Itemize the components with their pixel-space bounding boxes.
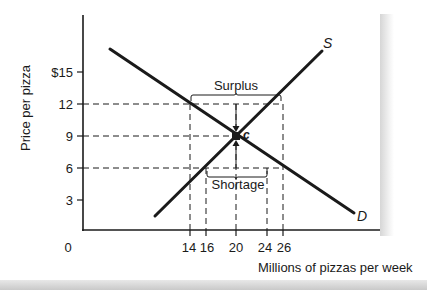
demand-label: D [357, 208, 367, 224]
x-tick-label-24: 24 [258, 240, 272, 255]
x-tick-label-14: 14 [182, 240, 196, 255]
supply-label: S [323, 35, 333, 51]
x-ticks [190, 230, 283, 236]
equilibrium-point [232, 132, 240, 140]
x-tick-label-20: 20 [229, 240, 243, 255]
origin-label: 0 [64, 240, 71, 255]
arrow-up-icon [233, 140, 240, 146]
y-axis-title: Price per pizza [18, 64, 33, 151]
y-tick-label-9: 9 [66, 129, 73, 144]
y-tick-label-12: 12 [59, 97, 73, 112]
y-ticks [77, 72, 83, 200]
y-tick-label-6: 6 [66, 161, 73, 176]
surplus-bracket [191, 93, 281, 101]
equilibrium-label: c [243, 128, 250, 142]
guide-lines [83, 104, 283, 230]
x-axis-title: Millions of pizzas per week [258, 260, 413, 275]
x-tick-label-16: 16 [200, 240, 214, 255]
surplus-label: Surplus [214, 78, 259, 93]
y-tick-label-3: 3 [66, 193, 73, 208]
supply-demand-chart: $15 12 9 6 3 0 14 16 20 24 26 Price per … [0, 0, 427, 290]
x-tick-label-26: 26 [277, 240, 291, 255]
y-tick-label-15: $15 [51, 65, 73, 80]
shortage-label: Shortage [212, 177, 265, 192]
